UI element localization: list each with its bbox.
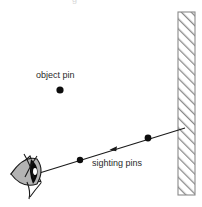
eye-highlight <box>33 168 37 175</box>
diagram-canvas <box>0 0 202 207</box>
object-pin-dot <box>56 86 63 93</box>
object-pin-label: object pin <box>36 70 75 80</box>
eye-icon <box>11 154 41 199</box>
mirror-wall <box>178 12 195 195</box>
cropped-top-text: g <box>72 0 77 4</box>
ray-diagram-figure: g object pin sighting pins <box>0 0 202 207</box>
mirror-wall-body <box>178 12 195 195</box>
sighting-pin-far-dot <box>145 135 152 142</box>
sighting-pin-near-dot <box>77 157 83 163</box>
sighting-pins-label: sighting pins <box>92 158 142 168</box>
